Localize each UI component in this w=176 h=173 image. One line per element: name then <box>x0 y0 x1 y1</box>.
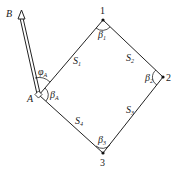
label-s3: S3 <box>126 104 134 116</box>
station-2-dot <box>161 75 164 78</box>
label-betaA: βA <box>49 89 59 101</box>
label-a: A <box>26 93 34 104</box>
label-3: 3 <box>100 157 105 168</box>
label-2: 2 <box>166 72 171 83</box>
station-1-dot <box>101 18 104 21</box>
angle-arc-beta2 <box>152 70 157 85</box>
reference-direction-ab <box>18 10 40 94</box>
label-s2: S2 <box>126 52 134 64</box>
traverse-diagram: B A 1 2 3 S1 S2 S3 S4 β1 β2 β3 βA φA <box>0 0 176 173</box>
label-s1: S1 <box>73 55 81 67</box>
angle-arcs <box>35 27 157 148</box>
label-1: 1 <box>100 5 105 16</box>
label-b: B <box>6 8 12 19</box>
label-phiA: φA <box>38 66 48 78</box>
station-3-dot <box>101 151 104 154</box>
angle-arc-betaA <box>45 88 48 101</box>
label-s4: S4 <box>75 115 83 127</box>
side-s1 <box>39 20 103 95</box>
side-s2 <box>103 20 163 77</box>
label-beta1: β1 <box>97 29 106 41</box>
label-beta2: β2 <box>144 72 153 84</box>
label-beta3: β3 <box>97 134 106 146</box>
side-s4 <box>39 95 103 153</box>
arrow-head-icon <box>18 10 25 19</box>
